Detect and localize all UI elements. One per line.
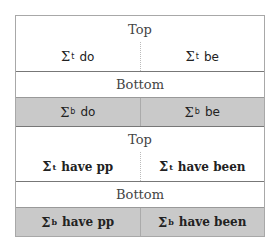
cell-top-be: Σtbe xyxy=(140,42,265,71)
bottom-header: Bottom xyxy=(16,71,264,97)
cell-label: be xyxy=(204,50,219,64)
top-cells-row: Σtdo Σtbe xyxy=(16,42,264,71)
cell-label: have been xyxy=(179,215,247,229)
sigma-symbol: Σ xyxy=(185,105,194,120)
cell-bottom-have-pp: Σbhave pp xyxy=(16,208,140,236)
sigma-symbol: Σ xyxy=(159,159,168,174)
cell-label: have pp xyxy=(62,215,114,229)
sigma-symbol: Σ xyxy=(41,215,50,230)
sigma-symbol: Σ xyxy=(186,49,195,64)
cell-label: do xyxy=(80,105,95,119)
top-header: Top xyxy=(16,126,264,152)
cell-label: do xyxy=(79,50,94,64)
sigma-symbol: Σ xyxy=(158,215,167,230)
cell-bottom-do: Σbdo xyxy=(16,98,140,126)
bottom-cells-row: Σbdo Σbbe xyxy=(16,97,264,126)
sigma-symbol: Σ xyxy=(42,159,51,174)
top-cells-row: Σthave pp Σthave been xyxy=(16,152,264,181)
top-header: Top xyxy=(16,16,264,42)
cell-label: be xyxy=(205,105,220,119)
cell-label: have pp xyxy=(61,160,113,174)
cell-bottom-have-been: Σbhave been xyxy=(140,208,265,236)
diagram-table: Top Σtdo Σtbe Bottom Σbdo Σbbe Top Σthav… xyxy=(15,15,265,237)
sigma-symbol: Σ xyxy=(60,105,69,120)
bottom-cells-row: Σbhave pp Σbhave been xyxy=(16,207,264,236)
cell-top-have-pp: Σthave pp xyxy=(16,152,140,181)
cell-top-do: Σtdo xyxy=(16,42,140,71)
cell-bottom-be: Σbbe xyxy=(140,98,265,126)
cell-label: have been xyxy=(178,160,246,174)
sigma-symbol: Σ xyxy=(61,49,70,64)
cell-top-have-been: Σthave been xyxy=(140,152,265,181)
bottom-header: Bottom xyxy=(16,181,264,207)
